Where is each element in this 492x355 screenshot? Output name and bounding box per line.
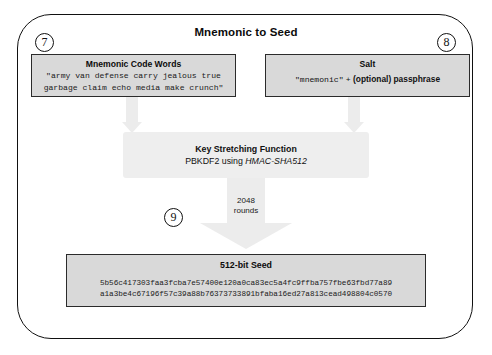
key-stretching-function-box: Key Stretching Function PBKDF2 using HMA… (123, 132, 369, 178)
kdf-box-title: Key Stretching Function (123, 143, 369, 155)
kdf-subtitle-prefix: PBKDF2 using (185, 156, 245, 166)
arrow-kdf-to-seed-head (200, 223, 292, 249)
rounds-label: 2048 rounds (206, 196, 286, 216)
seed-output-box: 512-bit Seed 5b56c417303faa3fcba7e57400e… (66, 254, 426, 307)
arrow-mnemonic-to-kdf-stem (126, 97, 138, 123)
mnemonic-box-title: Mnemonic Code Words (32, 59, 235, 70)
arrow-salt-to-kdf-stem (348, 97, 360, 123)
rounds-count: 2048 (206, 196, 286, 206)
seed-box-title: 512-bit Seed (67, 260, 425, 271)
kdf-subtitle-algorithm: HMAC-SHA512 (245, 156, 307, 166)
salt-box: Salt "mnemonic" + (optional) passphrase (265, 54, 470, 97)
kdf-box-subtitle: PBKDF2 using HMAC-SHA512 (123, 155, 369, 167)
mnemonic-words-line-1: "army van defense carry jealous true (32, 70, 235, 82)
mnemonic-words-line-2: garbage claim echo media make crunch" (32, 82, 235, 94)
diagram-title: Mnemonic to Seed (0, 26, 492, 38)
seed-hex-line-1: 5b56c417303faa3fcba7e57400e120a0ca83ec5a… (67, 278, 425, 289)
salt-box-title: Salt (266, 59, 469, 70)
salt-quoted-literal: "mnemonic" (295, 75, 344, 84)
diagram-canvas: Mnemonic to Seed 7 8 9 Mnemonic Code Wor… (0, 0, 492, 355)
seed-hex-line-2: a1a3be4c67196f57c39a88b76373733891bfaba1… (67, 289, 425, 300)
rounds-unit: rounds (206, 206, 286, 216)
step-number-7: 7 (35, 33, 54, 52)
salt-passphrase-label: (optional) passphrase (353, 74, 440, 84)
salt-expression: "mnemonic" + (optional) passphrase (266, 73, 469, 86)
step-number-9: 9 (164, 208, 183, 227)
step-number-8: 8 (437, 33, 456, 52)
salt-plus-operator: + (346, 75, 351, 84)
mnemonic-code-words-box: Mnemonic Code Words "army van defense ca… (31, 54, 236, 97)
